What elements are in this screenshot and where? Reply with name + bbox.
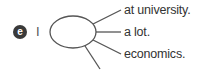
option-3: economics. bbox=[124, 47, 185, 61]
blank-oval bbox=[50, 16, 96, 48]
option-2: a lot. bbox=[124, 25, 150, 39]
option-1: at university. bbox=[124, 3, 190, 17]
